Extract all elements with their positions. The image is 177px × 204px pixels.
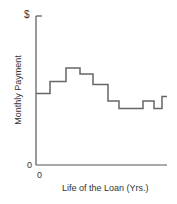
- y-axis-title: Monthly Payment: [13, 50, 23, 130]
- step-chart: $ 0 0 Life of the Loan (Yrs.) Monthly Pa…: [0, 0, 177, 204]
- x-axis-zero-label: 0: [37, 170, 42, 180]
- monthly-payment-step-line: [36, 68, 167, 108]
- y-axis-top-label: $: [24, 9, 30, 20]
- x-axis-title: Life of the Loan (Yrs.): [62, 183, 149, 193]
- chart-canvas: [0, 0, 177, 204]
- y-axis-zero-label: 0: [27, 160, 32, 170]
